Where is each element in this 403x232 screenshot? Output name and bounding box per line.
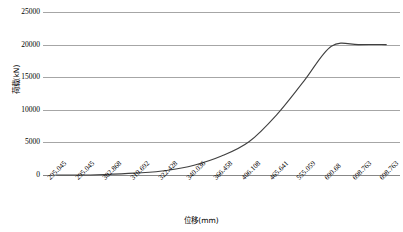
y-tick-label-15000: 15000 bbox=[6, 73, 40, 81]
x-axis-title: 位移(mm) bbox=[0, 214, 403, 225]
y-tick-label-0: 0 bbox=[6, 171, 40, 179]
series-line-path bbox=[57, 43, 387, 175]
x-axis-tick-labels: 295.045 295.045 302.868 310.692 322.428 … bbox=[43, 176, 400, 216]
load-displacement-curve bbox=[43, 12, 400, 175]
chart-container: 荷载(kN) 25000 20000 15000 10000 5000 0 29… bbox=[0, 0, 403, 232]
y-tick-label-10000: 10000 bbox=[6, 106, 40, 114]
y-axis-tick-labels: 25000 20000 15000 10000 5000 0 bbox=[0, 0, 40, 232]
y-tick-label-5000: 5000 bbox=[6, 138, 40, 146]
plot-area bbox=[43, 12, 400, 175]
y-tick-label-25000: 25000 bbox=[6, 8, 40, 16]
y-tick-label-20000: 20000 bbox=[6, 41, 40, 49]
